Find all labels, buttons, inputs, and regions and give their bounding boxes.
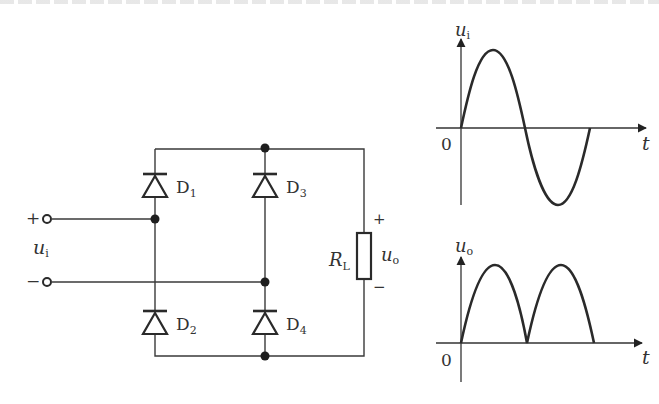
input-plus-sign: + [26,208,40,228]
diode-d2-label: D2 [176,314,197,337]
x-axis-label: t [642,132,650,154]
input-terminal-plus [43,215,51,223]
load-resistor [357,233,371,279]
output-minus-sign: − [373,278,386,296]
diode-d4-label: D4 [286,314,307,337]
diode-d4 [253,311,277,334]
diagram-canvas: + − ui D1 D2 D3 D4 RL + − uo ui 0 t uo 0… [0,0,659,404]
diode-d3 [253,174,277,197]
junction-dot [151,215,160,224]
output-waveform-plot: uo 0 t [436,235,650,382]
diode-d1-label: D1 [176,177,197,200]
input-minus-sign: − [26,271,40,291]
output-voltage-label: uo [381,244,400,267]
origin-label: 0 [441,350,452,370]
x-axis-label: t [642,346,650,368]
diode-d3-label: D3 [286,177,307,200]
diode-d2 [143,311,167,334]
load-label: RL [328,249,351,273]
input-voltage-label: ui [33,236,49,260]
y-axis-label: ui [455,19,471,42]
output-plus-sign: + [373,210,386,228]
rectified-curve [461,265,594,343]
y-axis-label: uo [455,235,474,258]
bridge-rectifier-circuit: + − ui D1 D2 D3 D4 RL + − uo [26,144,400,361]
junction-dot [261,278,270,287]
junction-dot [261,352,270,361]
input-waveform-plot: ui 0 t [436,19,650,205]
origin-label: 0 [441,134,452,154]
junction-dot [261,144,270,153]
input-terminal-minus [43,278,51,286]
diode-d1 [143,174,167,197]
